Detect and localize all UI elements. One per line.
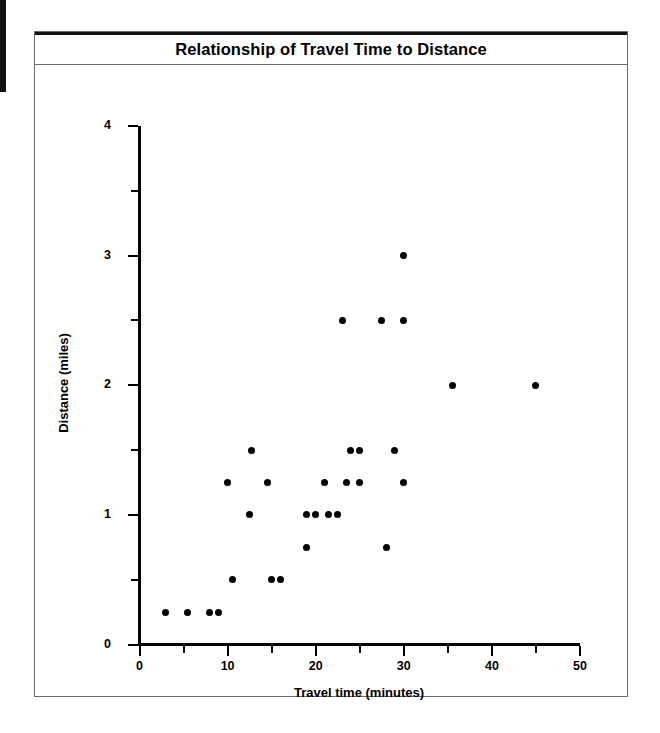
x-axis-tick-label: 0 xyxy=(120,659,160,673)
x-axis-tick-label: 50 xyxy=(560,659,600,673)
scatter-data-point xyxy=(339,317,346,324)
scatter-plot-axes: 01234 01020304050 Distance (miles) Trave… xyxy=(35,65,627,696)
x-axis-major-tick xyxy=(315,646,317,656)
x-axis-minor-tick xyxy=(535,646,537,653)
y-axis-minor-tick xyxy=(131,319,138,321)
y-axis-tick-label: 4 xyxy=(35,118,111,132)
x-axis-major-tick xyxy=(403,646,405,656)
y-axis-tick-label: 1 xyxy=(35,507,111,521)
y-axis-major-tick xyxy=(128,644,138,646)
scatter-data-point xyxy=(321,479,328,486)
x-axis-tick-label: 40 xyxy=(472,659,512,673)
figure-container: Relationship of Travel Time to Distance … xyxy=(34,31,628,697)
scatter-data-point xyxy=(277,576,284,583)
scatter-data-point xyxy=(268,576,275,583)
scatter-data-point xyxy=(206,609,213,616)
x-axis-major-tick xyxy=(579,646,581,656)
scatter-data-point xyxy=(184,609,191,616)
y-axis-minor-tick xyxy=(131,579,138,581)
scatter-data-point xyxy=(246,511,253,518)
scatter-data-point xyxy=(264,479,271,486)
scatter-data-point xyxy=(248,447,255,454)
x-axis-minor-tick xyxy=(359,646,361,653)
scatter-data-point xyxy=(334,511,341,518)
x-axis-minor-tick xyxy=(183,646,185,653)
page-title: Relationship of Travel Time to Distance xyxy=(175,40,487,59)
scatter-data-point xyxy=(224,479,231,486)
y-axis-minor-tick xyxy=(131,190,138,192)
x-axis-tick-label: 20 xyxy=(296,659,336,673)
y-axis-minor-tick xyxy=(131,449,138,451)
scatter-data-point xyxy=(400,252,407,259)
scatter-data-point xyxy=(347,447,354,454)
scatter-data-point xyxy=(303,544,310,551)
x-axis-tick-label: 10 xyxy=(208,659,248,673)
page-gutter-bar xyxy=(0,0,6,92)
y-axis-tick-label: 2 xyxy=(35,377,111,391)
y-axis-tick-label: 3 xyxy=(35,248,111,262)
x-axis-tick-label: 30 xyxy=(384,659,424,673)
scatter-data-point xyxy=(343,479,350,486)
scatter-data-point xyxy=(325,511,332,518)
scatter-data-point xyxy=(162,609,169,616)
y-axis-line xyxy=(138,126,141,646)
scatter-data-point xyxy=(215,609,222,616)
scatter-data-point xyxy=(303,511,310,518)
x-axis-minor-tick xyxy=(447,646,449,653)
scatter-data-point xyxy=(229,576,236,583)
scatter-data-point xyxy=(400,479,407,486)
scatter-data-point xyxy=(532,382,539,389)
scatter-data-point xyxy=(378,317,385,324)
x-axis-title: Travel time (minutes) xyxy=(138,685,580,700)
plot-area: 01234 01020304050 Distance (miles) Trave… xyxy=(35,65,627,696)
y-axis-major-tick xyxy=(128,514,138,516)
x-axis-major-tick xyxy=(491,646,493,656)
scatter-data-point xyxy=(312,511,319,518)
x-axis-minor-tick xyxy=(271,646,273,653)
y-axis-major-tick xyxy=(128,125,138,127)
y-axis-major-tick xyxy=(128,384,138,386)
x-axis-major-tick xyxy=(227,646,229,656)
scatter-data-point xyxy=(449,382,456,389)
y-axis-major-tick xyxy=(128,255,138,257)
y-axis-tick-label: 0 xyxy=(35,637,111,651)
scatter-data-point xyxy=(356,447,363,454)
scatter-data-point xyxy=(400,317,407,324)
scatter-data-point xyxy=(383,544,390,551)
scatter-data-point xyxy=(356,479,363,486)
scatter-data-point xyxy=(391,447,398,454)
x-axis-major-tick xyxy=(139,646,141,656)
y-axis-title: Distance (miles) xyxy=(56,333,71,433)
chart-title-band: Relationship of Travel Time to Distance xyxy=(35,32,627,65)
